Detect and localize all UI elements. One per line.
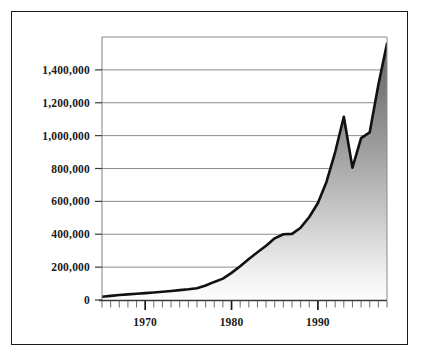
y-tick-label: 1,000,000 [42,130,90,142]
x-tick-label: 1990 [306,316,330,328]
x-tick-label: 1970 [133,316,157,328]
x-tick-label: 1980 [220,316,244,328]
x-axis-ticks [102,301,387,310]
y-tick-label: 0 [84,294,90,306]
y-tick-label: 400,000 [51,228,90,240]
y-tick-label: 200,000 [51,261,90,273]
area-chart: 0200,000400,000600,000800,0001,000,0001,… [0,0,423,360]
y-tick-label: 1,400,000 [42,64,90,76]
x-axis-tick-labels: 197019801990 [133,316,330,328]
y-tick-label: 1,200,000 [42,97,90,109]
y-tick-label: 600,000 [51,195,90,207]
chart-figure: 0200,000400,000600,000800,0001,000,0001,… [0,0,423,360]
y-tick-label: 800,000 [51,163,90,175]
y-axis-ticks [95,70,102,300]
y-axis-tick-labels: 0200,000400,000600,000800,0001,000,0001,… [42,64,90,306]
